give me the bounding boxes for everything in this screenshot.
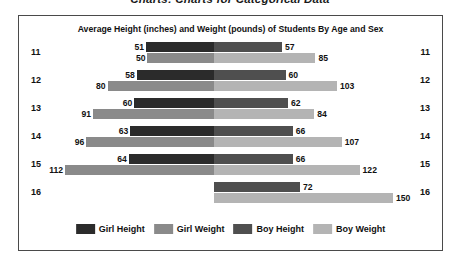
legend-swatch-icon [234,224,253,234]
girl-height-segment-value: 51 [135,42,145,52]
chart-row: 131360629184 [19,96,442,124]
legend-label: Boy Height [257,224,305,234]
boy-height-segment-value: 66 [296,154,306,164]
girl-height-segment [146,42,214,52]
girl-height-segment [134,98,214,108]
chart-row: 15156466112122 [19,152,442,180]
girl-weight-segment [86,137,214,147]
girl-weight-segment [93,109,214,119]
boy-weight-segment [214,109,314,119]
girl-height-segment-value: 60 [123,98,133,108]
row-bars: 72150 [19,180,442,208]
boy-height-segment [214,154,293,164]
page-heading: Charts: Charts for Categorical Data [0,0,460,5]
legend-label: Boy Weight [336,224,385,234]
legend-item[interactable]: Girl Weight [154,224,225,234]
boy-height-segment [214,42,282,52]
girl-weight-segment-value: 96 [75,137,85,147]
row-bars: 51575085 [19,40,442,68]
chart-title: Average Height (inches) and Weight (poun… [19,24,442,34]
boy-height-segment-value: 66 [296,126,306,136]
height-bar [130,126,293,136]
weight-bar [108,81,337,91]
chart-row: 111151575085 [19,40,442,68]
boy-weight-segment [214,53,315,63]
legend-item[interactable]: Boy Height [234,224,305,234]
chart-row: 1212586080103 [19,68,442,96]
row-bars: 6466112122 [19,152,442,180]
chart-plot-area: 1111515750851212586080103131360629184141… [19,40,442,210]
boy-weight-segment-value: 122 [363,165,377,175]
girl-weight-segment-value: 91 [81,109,91,119]
boy-height-segment [214,70,286,80]
chart-row: 1414636696107 [19,124,442,152]
legend-swatch-icon [154,224,173,234]
girl-height-segment [130,126,214,136]
height-bar [146,42,282,52]
height-bar [137,70,286,80]
height-bar [214,182,300,192]
chart-row: 161672150 [19,180,442,208]
row-bars: 60629184 [19,96,442,124]
girl-height-segment [137,70,214,80]
boy-height-segment [214,182,300,192]
boy-height-segment-value: 62 [291,98,301,108]
boy-weight-segment-value: 107 [345,137,359,147]
legend-swatch-icon [313,224,332,234]
weight-bar [147,53,315,63]
weight-bar [86,137,341,147]
legend-item[interactable]: Boy Weight [313,224,385,234]
legend-label: Girl Height [99,224,145,234]
girl-weight-segment [147,53,214,63]
girl-height-segment-value: 63 [119,126,129,136]
legend-item[interactable]: Girl Height [76,224,145,234]
boy-weight-segment-value: 84 [317,109,327,119]
boy-weight-segment [214,137,342,147]
row-bars: 636696107 [19,124,442,152]
chart-legend: Girl HeightGirl WeightBoy HeightBoy Weig… [70,221,392,237]
legend-swatch-icon [76,224,95,234]
weight-bar [214,193,393,203]
weight-bar [93,109,314,119]
girl-weight-segment-value: 50 [136,53,146,63]
chart-screenshot: Charts: Charts for Categorical Data Aver… [0,0,460,264]
boy-weight-segment [214,81,337,91]
boy-height-segment-value: 72 [303,182,313,192]
boy-height-segment [214,126,293,136]
chart-frame: Average Height (inches) and Weight (poun… [18,15,443,251]
height-bar [129,154,293,164]
boy-weight-segment-value: 85 [318,53,328,63]
weight-bar [65,165,360,175]
boy-height-segment [214,98,288,108]
boy-height-segment-value: 57 [285,42,295,52]
girl-weight-segment-value: 80 [96,81,106,91]
height-bar [134,98,288,108]
girl-height-segment-value: 64 [117,154,127,164]
legend-label: Girl Weight [177,224,225,234]
girl-weight-segment [108,81,214,91]
girl-weight-segment-value: 112 [49,165,63,175]
boy-weight-segment [214,193,393,203]
girl-height-segment [129,154,214,164]
boy-height-segment-value: 60 [289,70,299,80]
girl-height-segment-value: 58 [125,70,135,80]
girl-weight-segment [65,165,214,175]
boy-weight-segment [214,165,360,175]
row-bars: 586080103 [19,68,442,96]
boy-weight-segment-value: 150 [396,193,410,203]
boy-weight-segment-value: 103 [340,81,354,91]
